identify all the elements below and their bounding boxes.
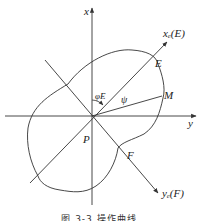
label-xe-axis: xₑ(E) xyxy=(163,28,185,39)
label-point-e: E xyxy=(155,58,162,69)
label-point-f: F xyxy=(127,150,134,161)
label-point-p: P xyxy=(83,134,90,145)
label-x-axis: x xyxy=(84,6,89,17)
figure-caption: 图 3-3 操作曲线 xyxy=(0,212,198,221)
label-ye-axis: yₑ(F) xyxy=(162,188,184,199)
label-point-m: M xyxy=(164,90,173,101)
label-angle-psi: ψ xyxy=(121,95,127,105)
closed-curve xyxy=(27,50,164,192)
xe-axis xyxy=(30,42,167,183)
ye-axis xyxy=(45,60,158,193)
label-y-axis: y xyxy=(188,118,193,129)
label-angle-phi: φE xyxy=(95,92,105,101)
